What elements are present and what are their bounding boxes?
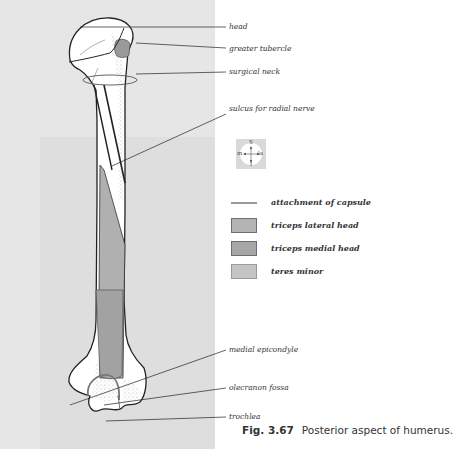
figure-number: Fig. 3.67 [242, 424, 294, 436]
label-greater-tubercle: greater tubercle [229, 44, 291, 53]
legend-label-triceps-medial: triceps medial head [271, 243, 360, 253]
legend-swatch-teres-minor [231, 264, 257, 279]
orientation-compass: S I m la [236, 139, 266, 169]
triceps-medial-head [96, 290, 123, 379]
label-trochlea: trochlea [229, 412, 260, 421]
label-sulcus-radial-nerve: sulcus for radial nerve [229, 104, 315, 113]
legend-label-capsule: attachment of capsule [271, 197, 371, 207]
legend-label-triceps-lateral: triceps lateral head [271, 220, 359, 230]
compass-lateral: la [258, 150, 263, 156]
compass-inferior: I [250, 161, 252, 167]
compass-superior: S [249, 139, 253, 145]
teres-minor-area [115, 39, 130, 57]
legend-swatch-triceps-lateral [231, 218, 257, 233]
label-olecranon-fossa: olecranon fossa [229, 383, 289, 392]
label-surgical-neck: surgical neck [229, 67, 280, 76]
compass-medial: m [237, 150, 242, 156]
legend-capsule-line [231, 202, 257, 204]
legend-swatch-triceps-medial [231, 241, 257, 256]
label-medial-epicondyle: medial epicondyle [229, 345, 298, 354]
figure-caption: Fig. 3.67Posterior aspect of humerus. [242, 424, 453, 436]
label-head: head [229, 22, 248, 31]
legend-label-teres-minor: teres minor [271, 266, 323, 276]
figure-title: Posterior aspect of humerus. [302, 424, 453, 436]
